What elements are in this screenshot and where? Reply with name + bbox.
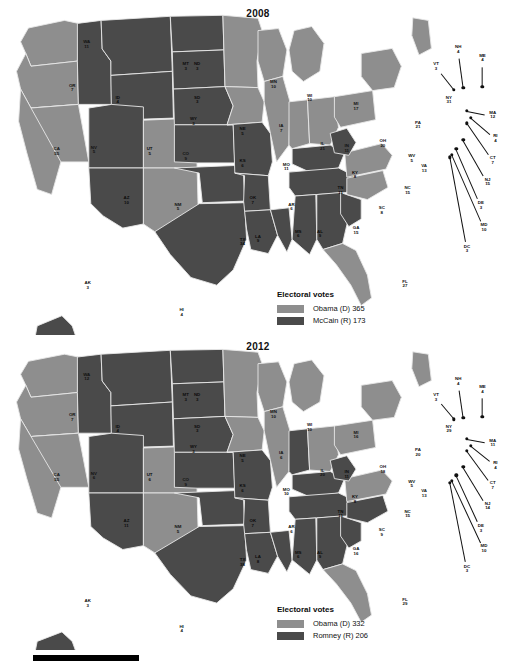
state-label-mn: MN10 [270,411,277,420]
state-me [412,18,432,55]
legend-swatch-democrat [277,620,304,628]
state-mi [289,27,324,82]
state-label-fl: FL29 [402,598,407,607]
state-label-id: ID4 [115,96,119,105]
state-label-wa: WA12 [83,373,90,382]
state-label-nj: NJ14 [485,502,491,512]
state-label-wv: WV5 [408,155,415,164]
state-ny [361,381,401,421]
state-label-wy: WY3 [190,445,197,454]
state-label-va: VA13 [421,165,427,174]
state-in [289,100,310,149]
legend-label-democrat: Obama (D) 332 [313,619,365,628]
state-ne [173,416,233,452]
state-label-ca: CA55 [54,474,60,483]
state-label-hi: HI4 [179,309,183,318]
state-label-az: AZ10 [123,196,129,205]
state-label-dc: DC3 [464,565,470,575]
state-label-ne: NE5 [239,455,245,464]
state-label-nc: NC15 [404,186,410,195]
state-label-co: CO9 [182,478,189,487]
state-label-mo: MO11 [283,163,290,172]
state-ak [34,316,77,335]
state-label-tn: TN11 [338,510,344,519]
state-tn [289,168,354,196]
legend-swatch-democrat [277,305,304,313]
state-label-nm: NM5 [175,203,182,212]
state-label-il: IL20 [320,469,325,478]
state-label-al: AL9 [317,230,323,239]
map-2008: 2008 Electoral votes Obama (D) 365 McCai… [0,0,516,335]
state-label-ga: GA16 [353,548,360,557]
state-label-tx: TX38 [240,559,246,568]
state-label-tx: TX34 [240,238,246,247]
state-label-ma: MA12 [489,111,496,121]
state-label-de: DE3 [478,524,484,534]
state-label-in: IN11 [344,144,349,153]
state-label-vt: VT3 [433,62,439,72]
state-in [289,429,310,475]
state-label-ar: AR6 [288,526,294,535]
legend-swatch-republican [277,632,304,640]
state-label-nc: NC15 [404,510,410,519]
legend-2008: Electoral votes Obama (D) 365 McCain (R)… [277,290,366,328]
state-label-ks: KS6 [239,485,245,494]
state-label-in: IN11 [344,471,349,480]
state-label-dc: DC3 [464,245,470,255]
state-label-or: OR7 [69,414,76,423]
legend-title: Electoral votes [277,605,368,614]
state-label-ms: MS6 [295,230,302,239]
legend-label-republican: McCain (R) 173 [313,316,366,325]
state-label-md: MD10 [481,223,488,233]
state-label-nv: NV5 [91,146,97,155]
state-label-il: IL21 [320,143,325,152]
state-label-ky: KY8 [352,171,358,180]
us-map-svg-2008 [0,0,516,335]
state-label-va: VA13 [421,489,427,498]
state-label-oh: OH20 [380,139,387,148]
state-me [412,352,432,387]
state-label-pa: PA21 [415,121,421,130]
state-tn [289,493,354,519]
legend-swatch-republican [277,317,304,325]
state-label-wv: WV5 [408,480,415,489]
state-label-mi: MI16 [354,431,359,440]
state-ut [89,433,144,493]
state-al [292,518,317,575]
state-label-me: ME4 [479,385,486,395]
state-label-oh: OH18 [380,466,387,475]
legend-label-republican: Romney (R) 206 [313,631,368,640]
state-ak [34,632,77,650]
state-label-az: AZ11 [123,519,129,528]
state-wa [21,20,79,66]
state-label-ut: UT6 [147,474,153,483]
state-az [89,168,144,228]
state-label-wi: WI10 [307,94,312,103]
state-label-sc: SC8 [379,206,385,215]
state-label-ky: KY8 [352,496,358,505]
scale-bar [33,655,139,661]
state-label-ks: KS6 [239,160,245,169]
legend-2012: Electoral votes Obama (D) 332 Romney (R)… [277,605,368,643]
state-wa [21,354,79,397]
state-label-ct: CT7 [490,481,496,491]
state-label-de: DE3 [478,201,484,211]
state-label-vt: VT3 [433,393,439,403]
state-wi [258,362,287,412]
state-label-ia: IA7 [279,124,283,133]
state-label-mt: MT3 [183,393,189,402]
state-label-ia: IA6 [279,452,283,461]
state-label-nm: NM5 [175,526,182,535]
state-mt [101,16,172,75]
state-nd [170,15,224,52]
state-label-ri: RI4 [493,134,497,144]
state-label-or: OR7 [69,84,76,93]
state-label-nv: NV6 [91,472,97,481]
state-label-sc: SC9 [379,529,385,538]
state-az [89,493,144,550]
map-2012: 2012 Electoral votes Obama (D) 332 Romne… [0,335,516,650]
state-label-ca: CA55 [54,148,60,157]
state-nd [170,349,224,383]
state-label-ak: AK3 [85,282,91,291]
state-label-me: ME4 [479,54,486,64]
